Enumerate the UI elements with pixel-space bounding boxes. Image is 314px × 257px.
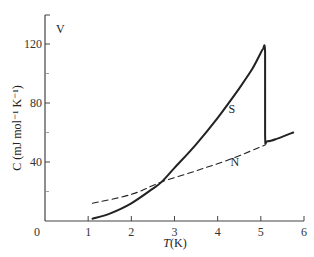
y-tick-label: 80 [30, 96, 42, 110]
x-tick-label: 6 [301, 225, 307, 239]
x-tick-label: 0 [34, 225, 40, 239]
panel-label: V [56, 22, 65, 36]
heat-capacity-chart: 01234564080120 SN V T(K) C (mJ mol⁻¹ K⁻¹… [0, 0, 314, 257]
x-tick-label: 2 [128, 225, 134, 239]
series-n-curve [93, 145, 266, 203]
series-layer: SN [93, 45, 294, 218]
series-n-label: N [231, 155, 240, 169]
y-tick-label: 120 [24, 37, 42, 51]
series-s-label: S [228, 102, 235, 116]
x-tick-label: 1 [85, 225, 91, 239]
x-tick-label: 5 [258, 225, 264, 239]
y-tick-label: 40 [30, 155, 42, 169]
x-axis-label: T(K) [163, 236, 186, 250]
x-tick-label: 4 [215, 225, 221, 239]
y-axis-label: C (mJ mol⁻¹ K⁻¹) [10, 85, 24, 171]
series-s-curve [93, 45, 294, 218]
